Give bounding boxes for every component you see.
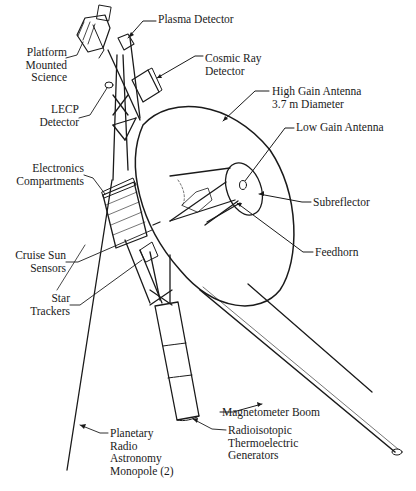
label-low-gain-antenna: Low Gain Antenna <box>296 121 384 134</box>
spacecraft-diagram: Plasma Detector Platform Mounted Science… <box>0 0 416 491</box>
pra-monopole <box>67 180 112 470</box>
label-electronics-compartments: Electronics Compartments <box>0 162 84 187</box>
label-magnetometer-boom: Magnetometer Boom <box>222 406 320 419</box>
label-plasma-detector: Plasma Detector <box>158 13 234 26</box>
rtg-cylinder <box>155 302 199 420</box>
label-cruise-sun-sensors: Cruise Sun Sensors <box>0 249 66 274</box>
label-subreflector: Subreflector <box>313 196 370 209</box>
label-platform-mounted-science: Platform Mounted Science <box>0 46 67 84</box>
leader-arrowheads <box>80 32 264 429</box>
label-high-gain-antenna: High Gain Antenna 3.7 m Diameter <box>272 85 361 110</box>
lecp-detector <box>105 82 113 88</box>
label-rtg: Radioisotopic Thermoelectric Generators <box>228 424 298 462</box>
label-lecp-detector: LECP Detector <box>0 103 79 128</box>
magnetometer-sensor <box>392 449 402 455</box>
label-cosmic-ray-detector: Cosmic Ray Detector <box>205 52 262 77</box>
label-pra-monopole: Planetary Radio Astronomy Monopole (2) <box>110 427 174 477</box>
label-feedhorn: Feedhorn <box>315 246 358 259</box>
low-gain-antenna <box>240 181 247 190</box>
label-star-trackers: Star Trackers <box>0 292 70 317</box>
